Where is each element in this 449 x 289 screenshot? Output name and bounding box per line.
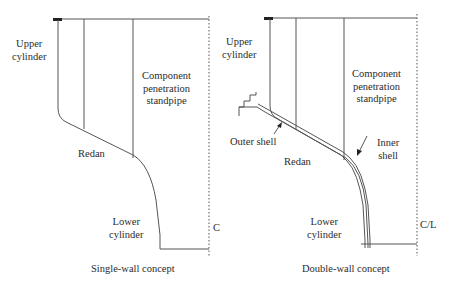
inner-shell-arrow-shaft xyxy=(360,136,367,150)
label-redan-double: Redan xyxy=(284,156,311,169)
label-line: Component xyxy=(352,68,401,81)
label-lower-cylinder-single: Lower cylinder xyxy=(109,216,143,241)
label-line: Lower xyxy=(307,216,341,229)
label-line: standpipe xyxy=(142,95,191,108)
label-line: Component xyxy=(142,70,191,83)
label-line: cylinder xyxy=(109,229,143,242)
label-lower-cylinder-double: Lower cylinder xyxy=(307,216,341,241)
label-centerline-double: C/L xyxy=(420,219,436,232)
label-line: penetration xyxy=(352,81,401,94)
label-centerline-single: C xyxy=(213,222,220,235)
label-line: standpipe xyxy=(352,93,401,106)
label-line: Upper xyxy=(12,38,46,51)
inner-shell-arrowhead-icon xyxy=(357,149,362,156)
label-outer-shell: Outer shell xyxy=(230,136,276,149)
label-component-standpipe-single: Component penetration standpipe xyxy=(142,70,191,108)
label-upper-cylinder-double: Upper cylinder xyxy=(222,36,256,61)
label-inner-shell: Inner shell xyxy=(377,137,399,162)
label-line: shell xyxy=(377,150,399,163)
deck-support-mark xyxy=(264,17,273,20)
label-redan-single: Redan xyxy=(78,148,105,161)
label-line: cylinder xyxy=(12,51,46,64)
label-line: cylinder xyxy=(307,229,341,242)
outer-shell-arrowhead-icon xyxy=(277,122,282,128)
caption-double-wall: Double-wall concept xyxy=(302,263,390,274)
label-line: Lower xyxy=(109,216,143,229)
inner-shell-wall xyxy=(270,19,368,248)
label-line: penetration xyxy=(142,83,191,96)
label-upper-cylinder-single: Upper cylinder xyxy=(12,38,46,63)
label-line: Upper xyxy=(222,36,256,49)
label-component-standpipe-double: Component penetration standpipe xyxy=(352,68,401,106)
label-line: Inner xyxy=(377,137,399,150)
flange-step-detail xyxy=(239,92,256,116)
label-line: cylinder xyxy=(222,49,256,62)
caption-single-wall: Single-wall concept xyxy=(91,263,175,274)
